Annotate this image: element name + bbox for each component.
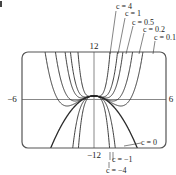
chart-plot: 12 −12 −6 6 c = 4 c = 1 c = 0.5 c = 0.2 …: [0, 0, 176, 175]
label-c-0-1: c = 0.1: [154, 33, 176, 42]
label-c-1: c = 1: [125, 9, 141, 18]
label-c-neg-4: c = −4: [106, 166, 127, 175]
y-max-label: 12: [90, 41, 99, 51]
x-max-label: 6: [169, 94, 174, 104]
y-min-label: −12: [87, 150, 101, 160]
x-min-label: −6: [7, 94, 17, 104]
axes: [22, 52, 166, 148]
label-c-neg-1: c = −1: [112, 155, 133, 164]
label-c-0: c = 0: [141, 138, 157, 147]
